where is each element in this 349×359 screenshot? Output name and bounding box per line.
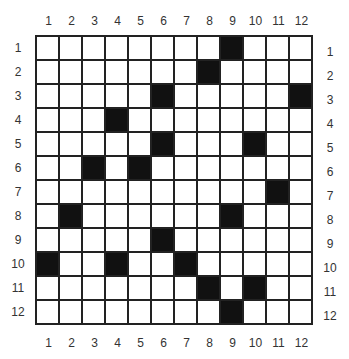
white-cell[interactable] <box>60 229 83 253</box>
white-cell[interactable] <box>267 61 290 85</box>
white-cell[interactable] <box>221 109 244 133</box>
white-cell[interactable] <box>244 253 267 277</box>
white-cell[interactable] <box>267 253 290 277</box>
white-cell[interactable] <box>129 205 152 229</box>
white-cell[interactable] <box>129 301 152 325</box>
white-cell[interactable] <box>83 133 106 157</box>
white-cell[interactable] <box>290 133 313 157</box>
white-cell[interactable] <box>106 37 129 61</box>
white-cell[interactable] <box>175 133 198 157</box>
white-cell[interactable] <box>221 133 244 157</box>
white-cell[interactable] <box>290 157 313 181</box>
white-cell[interactable] <box>83 85 106 109</box>
white-cell[interactable] <box>60 181 83 205</box>
white-cell[interactable] <box>83 229 106 253</box>
white-cell[interactable] <box>198 205 221 229</box>
white-cell[interactable] <box>175 277 198 301</box>
white-cell[interactable] <box>152 205 175 229</box>
white-cell[interactable] <box>60 85 83 109</box>
white-cell[interactable] <box>267 301 290 325</box>
white-cell[interactable] <box>152 157 175 181</box>
white-cell[interactable] <box>37 181 60 205</box>
white-cell[interactable] <box>198 109 221 133</box>
white-cell[interactable] <box>83 181 106 205</box>
white-cell[interactable] <box>60 277 83 301</box>
white-cell[interactable] <box>83 109 106 133</box>
white-cell[interactable] <box>198 85 221 109</box>
white-cell[interactable] <box>60 37 83 61</box>
white-cell[interactable] <box>244 229 267 253</box>
white-cell[interactable] <box>198 253 221 277</box>
white-cell[interactable] <box>198 181 221 205</box>
white-cell[interactable] <box>83 37 106 61</box>
white-cell[interactable] <box>221 85 244 109</box>
white-cell[interactable] <box>175 109 198 133</box>
white-cell[interactable] <box>267 205 290 229</box>
white-cell[interactable] <box>267 229 290 253</box>
white-cell[interactable] <box>60 61 83 85</box>
white-cell[interactable] <box>83 253 106 277</box>
white-cell[interactable] <box>175 181 198 205</box>
white-cell[interactable] <box>290 301 313 325</box>
white-cell[interactable] <box>221 157 244 181</box>
white-cell[interactable] <box>152 61 175 85</box>
white-cell[interactable] <box>37 85 60 109</box>
white-cell[interactable] <box>290 205 313 229</box>
white-cell[interactable] <box>175 205 198 229</box>
white-cell[interactable] <box>60 301 83 325</box>
white-cell[interactable] <box>267 133 290 157</box>
white-cell[interactable] <box>37 157 60 181</box>
white-cell[interactable] <box>175 157 198 181</box>
white-cell[interactable] <box>37 61 60 85</box>
white-cell[interactable] <box>175 85 198 109</box>
white-cell[interactable] <box>37 37 60 61</box>
white-cell[interactable] <box>37 277 60 301</box>
white-cell[interactable] <box>290 253 313 277</box>
white-cell[interactable] <box>221 229 244 253</box>
white-cell[interactable] <box>221 277 244 301</box>
white-cell[interactable] <box>129 61 152 85</box>
white-cell[interactable] <box>290 229 313 253</box>
white-cell[interactable] <box>221 253 244 277</box>
white-cell[interactable] <box>106 157 129 181</box>
white-cell[interactable] <box>244 61 267 85</box>
white-cell[interactable] <box>198 157 221 181</box>
white-cell[interactable] <box>106 133 129 157</box>
white-cell[interactable] <box>244 85 267 109</box>
white-cell[interactable] <box>129 181 152 205</box>
white-cell[interactable] <box>244 205 267 229</box>
white-cell[interactable] <box>175 37 198 61</box>
white-cell[interactable] <box>244 157 267 181</box>
white-cell[interactable] <box>37 229 60 253</box>
white-cell[interactable] <box>290 109 313 133</box>
white-cell[interactable] <box>198 37 221 61</box>
white-cell[interactable] <box>37 205 60 229</box>
white-cell[interactable] <box>106 85 129 109</box>
white-cell[interactable] <box>129 133 152 157</box>
white-cell[interactable] <box>129 37 152 61</box>
white-cell[interactable] <box>221 61 244 85</box>
white-cell[interactable] <box>60 253 83 277</box>
white-cell[interactable] <box>152 301 175 325</box>
white-cell[interactable] <box>106 301 129 325</box>
white-cell[interactable] <box>129 229 152 253</box>
white-cell[interactable] <box>267 157 290 181</box>
white-cell[interactable] <box>60 109 83 133</box>
white-cell[interactable] <box>290 61 313 85</box>
white-cell[interactable] <box>37 109 60 133</box>
white-cell[interactable] <box>290 181 313 205</box>
white-cell[interactable] <box>290 277 313 301</box>
white-cell[interactable] <box>106 205 129 229</box>
white-cell[interactable] <box>175 229 198 253</box>
white-cell[interactable] <box>106 277 129 301</box>
white-cell[interactable] <box>129 277 152 301</box>
white-cell[interactable] <box>267 85 290 109</box>
white-cell[interactable] <box>267 37 290 61</box>
white-cell[interactable] <box>244 301 267 325</box>
white-cell[interactable] <box>152 253 175 277</box>
white-cell[interactable] <box>106 181 129 205</box>
white-cell[interactable] <box>129 85 152 109</box>
white-cell[interactable] <box>244 181 267 205</box>
white-cell[interactable] <box>60 157 83 181</box>
white-cell[interactable] <box>152 181 175 205</box>
